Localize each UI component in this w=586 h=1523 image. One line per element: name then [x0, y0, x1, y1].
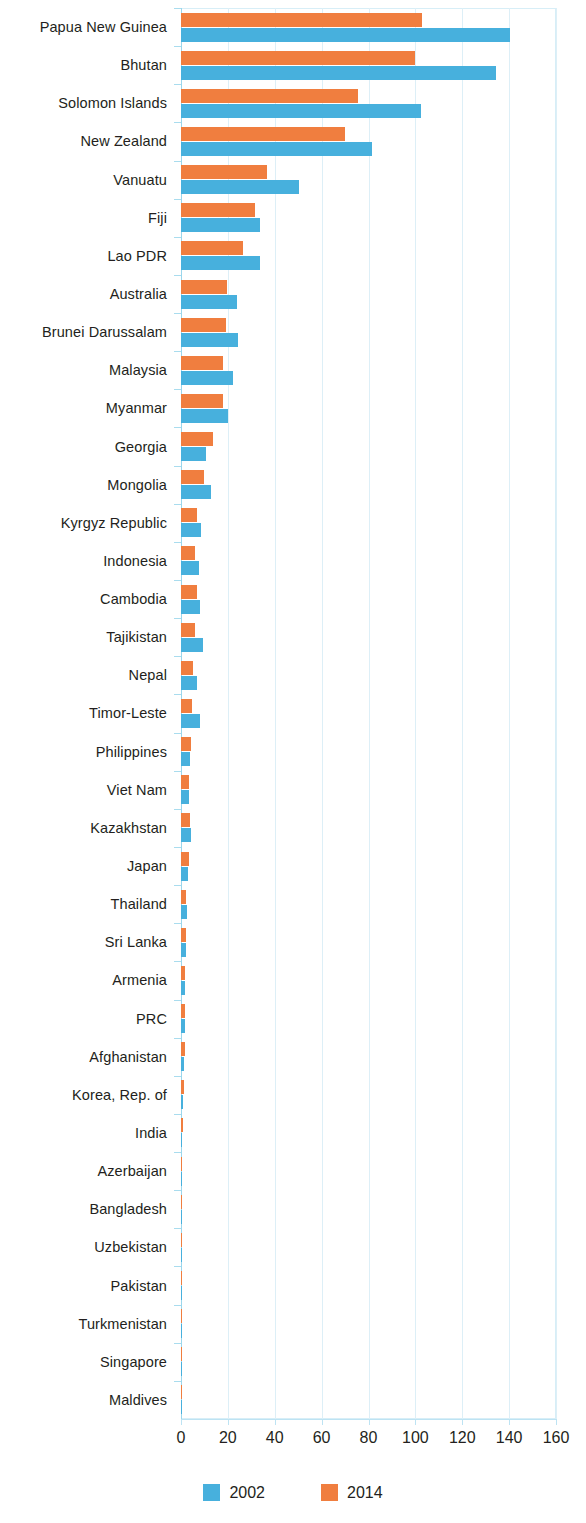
bar-2002 [181, 1210, 182, 1224]
chart-row: Bhutan [0, 46, 586, 84]
bar-2014 [181, 51, 415, 65]
y-axis-tick [174, 466, 181, 467]
bar-2014 [181, 966, 185, 980]
chart-row: Indonesia [0, 542, 586, 580]
legend-label: 2014 [347, 1485, 383, 1501]
y-axis-tick [174, 809, 181, 810]
x-axis-tick-40 [275, 1419, 276, 1425]
legend-item-2002[interactable]: 2002 [203, 1484, 265, 1501]
bar-2014 [181, 585, 197, 599]
chart-row: PRC [0, 1000, 586, 1038]
x-axis-tick-label: 160 [526, 1430, 586, 1446]
bar-2014 [181, 1309, 182, 1323]
y-axis-tick [174, 847, 181, 848]
y-axis-tick [174, 237, 181, 238]
bar-2014 [181, 356, 223, 370]
y-axis-label: Cambodia [0, 592, 167, 607]
chart-row: Armenia [0, 961, 586, 999]
chart-row: Thailand [0, 885, 586, 923]
y-axis-tick [174, 1038, 181, 1039]
bar-2014 [181, 699, 192, 713]
bar-2002 [181, 867, 188, 881]
x-axis-tick-100 [415, 1419, 416, 1425]
bar-2002 [181, 638, 203, 652]
y-axis-label: Brunei Darussalam [0, 325, 167, 340]
y-axis-tick [174, 1381, 181, 1382]
y-axis-label: Bangladesh [0, 1202, 167, 1217]
chart-row: Tajikistan [0, 618, 586, 656]
bar-2014 [181, 623, 195, 637]
y-axis-label: Sri Lanka [0, 935, 167, 950]
bar-2014 [181, 1385, 182, 1399]
bar-2014 [181, 546, 195, 560]
y-axis-label: Georgia [0, 440, 167, 455]
chart-row: Malaysia [0, 351, 586, 389]
y-axis-tick [174, 1343, 181, 1344]
legend-swatch-icon [321, 1484, 338, 1501]
y-axis-tick [174, 389, 181, 390]
bar-2002 [181, 142, 372, 156]
chart-row: Kyrgyz Republic [0, 504, 586, 542]
chart-row: Timor-Leste [0, 694, 586, 732]
bar-2014 [181, 280, 227, 294]
y-axis-tick [174, 656, 181, 657]
y-axis-label: Uzbekistan [0, 1240, 167, 1255]
y-axis-label: Azerbaijan [0, 1164, 167, 1179]
y-axis-label: New Zealand [0, 134, 167, 149]
bar-2002 [181, 66, 496, 80]
y-axis-tick [174, 84, 181, 85]
y-axis-tick [174, 161, 181, 162]
chart-row: Georgia [0, 427, 586, 465]
bar-2002 [181, 600, 200, 614]
chart-row: Pakistan [0, 1266, 586, 1304]
bar-2014 [181, 89, 358, 103]
chart-row: Vanuatu [0, 161, 586, 199]
y-axis-tick [174, 771, 181, 772]
bar-2002 [181, 409, 228, 423]
y-axis-tick [174, 8, 181, 9]
bar-2014 [181, 1157, 182, 1171]
chart-row: Mongolia [0, 466, 586, 504]
y-axis-tick [174, 1228, 181, 1229]
y-axis-tick [174, 427, 181, 428]
y-axis-tick [174, 313, 181, 314]
legend-item-2014[interactable]: 2014 [321, 1484, 383, 1501]
chart-row: Turkmenistan [0, 1305, 586, 1343]
y-axis-label: Kazakhstan [0, 821, 167, 836]
y-axis-tick [174, 504, 181, 505]
bar-2002 [181, 485, 211, 499]
y-axis-label: Nepal [0, 668, 167, 683]
chart-row: Afghanistan [0, 1038, 586, 1076]
x-axis-tick-140 [509, 1419, 510, 1425]
y-axis-label: Timor-Leste [0, 706, 167, 721]
chart-rows: Papua New GuineaBhutanSolomon IslandsNew… [0, 8, 586, 1419]
y-axis-tick [174, 1076, 181, 1077]
y-axis-label: Thailand [0, 897, 167, 912]
chart-row: Lao PDR [0, 237, 586, 275]
bar-2014 [181, 1118, 183, 1132]
y-axis-tick [174, 199, 181, 200]
chart-row: Cambodia [0, 580, 586, 618]
bar-2014 [181, 394, 223, 408]
chart-row: Sri Lanka [0, 923, 586, 961]
bar-2002 [181, 523, 201, 537]
y-axis-label: Vanuatu [0, 173, 167, 188]
x-axis-tick-120 [462, 1419, 463, 1425]
chart-row: Australia [0, 275, 586, 313]
x-axis-tick-60 [322, 1419, 323, 1425]
chart-row: Viet Nam [0, 771, 586, 809]
chart-row: Azerbaijan [0, 1152, 586, 1190]
y-axis-label: Bhutan [0, 58, 167, 73]
bar-2014 [181, 1233, 182, 1247]
bar-2002 [181, 1400, 182, 1414]
y-axis-label: Papua New Guinea [0, 20, 167, 35]
bar-2014 [181, 13, 422, 27]
bar-2014 [181, 852, 189, 866]
y-axis-tick [174, 351, 181, 352]
bar-2014 [181, 737, 191, 751]
y-axis-label: PRC [0, 1012, 167, 1027]
chart-row: Japan [0, 847, 586, 885]
y-axis-tick [174, 1305, 181, 1306]
bar-2014 [181, 318, 226, 332]
x-axis-tick-80 [369, 1419, 370, 1425]
